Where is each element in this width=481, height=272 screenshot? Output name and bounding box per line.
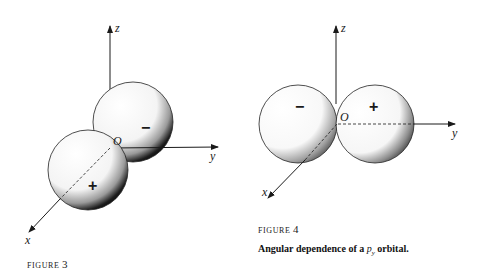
fig3-x-axis [29, 199, 60, 232]
figure-3-diagram: z y x O − + [24, 21, 218, 247]
fig4-minus-sign: − [295, 98, 304, 115]
figure-3-label-number: 3 [62, 258, 68, 270]
fig4-x-axis [268, 160, 305, 198]
figure-4-label-word: FIGURE [258, 226, 291, 235]
fig3-origin-label: O [113, 134, 122, 148]
fig4-plus-sign: + [369, 98, 378, 115]
caption-suffix: orbital. [375, 243, 409, 254]
fig4-z-label: z [340, 21, 346, 35]
fig3-minus-sign: − [141, 119, 150, 136]
fig4-origin-label: O [340, 110, 349, 124]
fig3-x-label: x [24, 233, 31, 247]
figure-4-label-number: 4 [293, 223, 299, 235]
caption-prefix: Angular dependence of a [258, 243, 367, 254]
figures-canvas: z y x O − + z y x O − + [0, 0, 481, 272]
figure-4-diagram: z y x O − + [259, 21, 458, 199]
fig3-y-label: y [209, 149, 216, 163]
figure-4-label: FIGURE 4 [258, 223, 299, 235]
figure-3-label-word: FIGURE [27, 261, 60, 270]
fig4-y-label: y [451, 126, 458, 140]
fig3-z-label: z [114, 21, 120, 35]
fig4-lobe-negative [259, 85, 337, 163]
fig4-x-label: x [261, 185, 268, 199]
figure-4-caption: Angular dependence of a py orbital. [258, 243, 409, 257]
fig3-plus-sign: + [88, 177, 97, 194]
figure-3-label: FIGURE 3 [27, 258, 68, 270]
